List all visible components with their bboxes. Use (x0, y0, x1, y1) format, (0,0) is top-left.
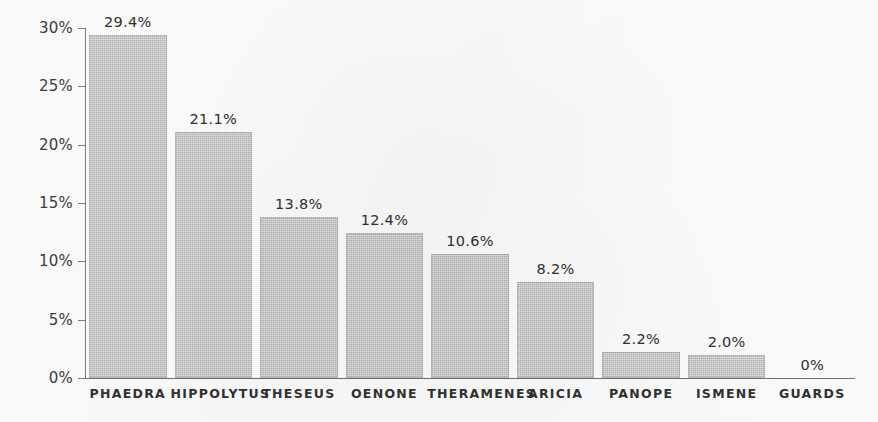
y-tick-label: 30% (39, 19, 73, 37)
bar-slot: 13.8% (256, 28, 342, 378)
x-axis-category-label: PANOPE (598, 386, 684, 401)
y-tick-label: 25% (39, 77, 73, 95)
x-axis-line (85, 378, 855, 379)
bar-value-label: 2.0% (684, 334, 770, 350)
x-axis-category-label: HIPPOLYTUS (171, 386, 257, 401)
bar-slot: 21.1% (171, 28, 257, 378)
y-tick-label: 5% (49, 311, 73, 329)
y-tick-mark (78, 378, 85, 379)
y-tick-mark (78, 86, 85, 87)
y-tick-label: 0% (49, 369, 73, 387)
bar-slot: 10.6% (427, 28, 513, 378)
bar (688, 355, 766, 378)
bar-value-label: 2.2% (598, 331, 684, 347)
bar-slot: 0% (769, 28, 855, 378)
y-tick-label: 15% (39, 194, 73, 212)
y-tick-mark (78, 203, 85, 204)
bar-series: 29.4%21.1%13.8%12.4%10.6%8.2%2.2%2.0%0% (85, 28, 855, 378)
x-axis-category-labels: PHAEDRAHIPPOLYTUSTHESEUSOENONETHERAMENES… (85, 386, 855, 408)
bar (346, 233, 424, 378)
bar-slot: 8.2% (513, 28, 599, 378)
bar-value-label: 12.4% (342, 212, 428, 228)
x-axis-category-label: GUARDS (769, 386, 855, 401)
y-tick-mark (78, 261, 85, 262)
bar (602, 352, 680, 378)
bar-slot: 2.2% (598, 28, 684, 378)
bar (89, 35, 167, 378)
bar-chart-figure: 0%5%10%15%20%25%30% 29.4%21.1%13.8%12.4%… (0, 0, 878, 422)
y-tick-mark (78, 145, 85, 146)
x-axis-category-label: PHAEDRA (85, 386, 171, 401)
bar-value-label: 13.8% (256, 196, 342, 212)
bar (260, 217, 338, 378)
x-axis-category-label: ARICIA (513, 386, 599, 401)
bar-value-label: 10.6% (427, 233, 513, 249)
plot-area: 0%5%10%15%20%25%30% 29.4%21.1%13.8%12.4%… (85, 28, 855, 378)
x-axis-category-label: THERAMENES (427, 386, 513, 401)
y-tick-label: 10% (39, 252, 73, 270)
y-tick-label: 20% (39, 136, 73, 154)
bar (175, 132, 253, 378)
bar-value-label: 29.4% (85, 14, 171, 30)
bar-value-label: 21.1% (171, 111, 257, 127)
bar-value-label: 0% (769, 357, 855, 373)
y-tick-mark (78, 320, 85, 321)
bar-value-label: 8.2% (513, 261, 599, 277)
y-tick-mark (78, 28, 85, 29)
bar (431, 254, 509, 378)
bar-slot: 2.0% (684, 28, 770, 378)
bar-slot: 12.4% (342, 28, 428, 378)
bar-slot: 29.4% (85, 28, 171, 378)
x-axis-category-label: ISMENE (684, 386, 770, 401)
x-axis-category-label: OENONE (342, 386, 428, 401)
bar (517, 282, 595, 378)
x-axis-category-label: THESEUS (256, 386, 342, 401)
